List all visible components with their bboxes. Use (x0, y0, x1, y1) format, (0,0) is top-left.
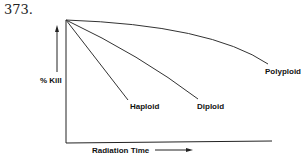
x-axis (66, 141, 272, 143)
polyploid-line (66, 20, 268, 64)
haploid-line (66, 20, 128, 100)
polyploid-label: Polyploid (265, 67, 301, 76)
y-axis-label: % Kill (40, 76, 62, 85)
y-arrow-icon (55, 25, 59, 72)
diploid-label: Diploid (197, 102, 224, 111)
kill-curve-chart: % Kill Radiation Time Haploid Diploid Po… (0, 0, 307, 155)
haploid-label: Haploid (130, 102, 159, 111)
x-arrow-icon (155, 148, 193, 152)
x-axis-label: Radiation Time (92, 146, 150, 155)
